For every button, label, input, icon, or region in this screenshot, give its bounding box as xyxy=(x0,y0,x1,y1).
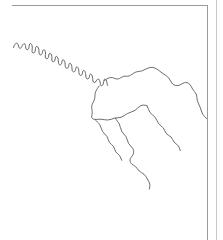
river-network-map xyxy=(0,0,223,240)
figure-root: g xyxy=(0,0,223,240)
map-background xyxy=(0,0,223,240)
